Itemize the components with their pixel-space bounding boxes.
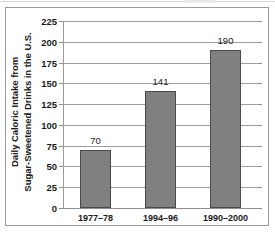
y-axis-tick-mark-right <box>258 63 262 64</box>
x-axis-line <box>63 208 258 209</box>
y-axis-tick-mark <box>59 42 63 43</box>
y-axis-tick-mark <box>59 104 63 105</box>
y-tick-label: 125 <box>41 99 57 110</box>
y-tick-label: 75 <box>46 140 57 151</box>
bar-value-label: 70 <box>90 135 101 146</box>
y-axis-line <box>63 21 64 208</box>
y-axis-tick-mark <box>59 187 63 188</box>
y-axis-tick-mark-right <box>258 83 262 84</box>
y-axis-tick-mark <box>59 146 63 147</box>
y-axis-tick-mark-right <box>258 42 262 43</box>
plot-area: 2252001751501251007550250 70141190 1977–… <box>63 21 258 208</box>
bar <box>80 150 111 208</box>
y-axis-tick-mark-right <box>258 208 262 209</box>
y-tick-label: 50 <box>46 161 57 172</box>
x-tick-label: 1994–96 <box>143 213 178 223</box>
y-tick-label: 100 <box>41 119 57 130</box>
y-axis-tick-mark-right <box>258 21 262 22</box>
scan-artifact-smudge <box>185 0 215 3</box>
y-axis-tick-mark <box>59 21 63 22</box>
y-axis-tick-mark-right <box>258 146 262 147</box>
y-axis-title-line-1: Daily Caloric Intake from <box>9 57 20 167</box>
x-tick-label: 1990–2000 <box>203 213 248 223</box>
y-axis-tick-mark-right <box>258 104 262 105</box>
y-tick-label: 25 <box>46 182 57 193</box>
x-tick-label: 1977–78 <box>78 213 113 223</box>
bar-value-label: 141 <box>153 76 169 87</box>
y-axis-tick-mark-right <box>258 125 262 126</box>
y-tick-label: 200 <box>41 36 57 47</box>
y-axis-tick-mark-right <box>258 187 262 188</box>
scan-artifact-line <box>0 1 275 2</box>
bar-value-label: 190 <box>218 35 234 46</box>
y-axis-tick-mark <box>59 208 63 209</box>
y-tick-label: 225 <box>41 16 57 27</box>
bar-chart-figure: Daily Caloric Intake from Sugar-Sweetene… <box>0 0 275 233</box>
bar <box>210 50 241 208</box>
y-tick-label: 175 <box>41 57 57 68</box>
bar <box>145 91 176 208</box>
y-axis-tick-mark <box>59 125 63 126</box>
y-axis-title: Daily Caloric Intake from Sugar-Sweetene… <box>5 14 37 210</box>
y-axis-title-line-2: Sugar-Sweetened Drinks in the U.S. <box>21 32 32 191</box>
y-axis-tick-mark <box>59 83 63 84</box>
y-axis-tick-mark <box>59 166 63 167</box>
y-tick-label: 0 <box>52 203 57 214</box>
y-tick-label: 150 <box>41 78 57 89</box>
y-axis-tick-mark-right <box>258 166 262 167</box>
gridline <box>63 21 258 22</box>
y-axis-tick-mark <box>59 63 63 64</box>
